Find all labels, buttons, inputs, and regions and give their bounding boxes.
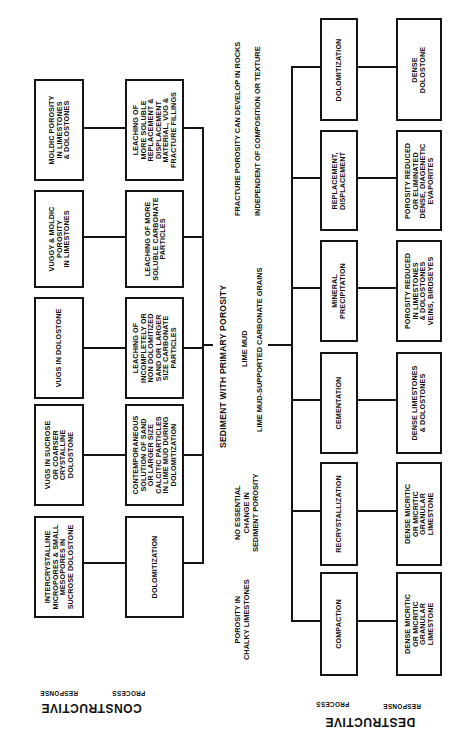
box-label: DENSE MICRITIC OR MICRITIC GRANULAR LIME… bbox=[404, 594, 434, 654]
constructive-response-intercrystalline-box: INTERCRYSTALLINE MICROPORES & SMALL MESO… bbox=[34, 516, 84, 618]
connector bbox=[357, 287, 396, 289]
destructive-stem bbox=[268, 344, 293, 346]
connector bbox=[292, 287, 320, 289]
destructive-response-micritic-2-box: DENSE MICRITIC OR MICRITIC GRANULAR LIME… bbox=[396, 572, 442, 676]
connector bbox=[357, 66, 396, 68]
box-label: MOLDIC POROSITY IN LIMESTONES & DOLOSTON… bbox=[48, 96, 71, 165]
constructive-process-contemporaneous-box: CONTEMPORANEOUS SOLUTION OF SAND OR LARG… bbox=[125, 404, 184, 506]
destructive-response-micritic-1-box: DENSE MICRITIC OR MICRITIC GRANULAR LIME… bbox=[396, 462, 442, 566]
box-label: LEACHING OF MORE SOLUBLE REPLACEMENT & D… bbox=[132, 92, 178, 168]
constructive-response-vugs-sucrose-box: VUGS IN SUCROSE OR COARSER CRYSTALLINE D… bbox=[34, 404, 84, 506]
connector bbox=[292, 620, 320, 622]
box-label: POROSITY REDUCED IN LIMESTONES & DOLOSTO… bbox=[404, 253, 434, 329]
connector bbox=[183, 562, 204, 564]
box-label: LEACHING OF MORE SOLUBLE CARBONATE PARTI… bbox=[143, 197, 166, 280]
box-label: REPLACEMENT, DISPLACEMENT bbox=[331, 152, 346, 210]
box-label: VUGS IN SUCROSE OR COARSER CRYSTALLINE D… bbox=[44, 421, 74, 490]
connector bbox=[292, 399, 320, 401]
destructive-response-veins-birdseyes-box: POROSITY REDUCED IN LIMESTONES & DOLOSTO… bbox=[396, 240, 442, 342]
constructive-response-vugs-dolostone-box: VUGS IN DOLOSTONE bbox=[34, 297, 84, 399]
constructive-process-header: PROCESS bbox=[112, 690, 145, 697]
box-label: DENSE LIMESTONES & DOLOSTONES bbox=[411, 366, 426, 441]
destructive-response-dense-dolostone-box: DENSE DOLOSTONE bbox=[396, 18, 442, 121]
connector bbox=[183, 454, 204, 456]
constructive-response-vuggy-box: VUGGY & MOLDIC POROSITY IN LIMESTONES bbox=[34, 190, 84, 288]
connector bbox=[183, 236, 204, 238]
box-label: DOLOMITIZATION bbox=[151, 536, 159, 599]
connector bbox=[83, 236, 125, 238]
connector bbox=[83, 562, 125, 564]
note-independent: INDEPENDENT OF COMPOSITION OR TEXTURE bbox=[253, 46, 262, 216]
connector bbox=[183, 347, 204, 349]
destructive-process-mineral-precipitation-box: MINERAL PRECIPITATION bbox=[320, 240, 358, 342]
constructive-stem bbox=[202, 344, 213, 346]
destructive-response-header: RESPONSE bbox=[383, 703, 421, 710]
box-label: DENSE MICRITIC OR MICRITIC GRANULAR LIME… bbox=[404, 484, 434, 544]
box-label: MINERAL PRECIPITATION bbox=[331, 263, 346, 319]
connector bbox=[292, 177, 320, 179]
connector bbox=[183, 127, 204, 129]
destructive-process-replacement-box: REPLACEMENT, DISPLACEMENT bbox=[320, 130, 358, 231]
note-fracture-porosity: FRACTURE POROSITY CAN DEVELOP IN ROCKS bbox=[233, 42, 242, 216]
destructive-title: DESTRUCTIVE bbox=[325, 715, 415, 729]
root-sublabel-lime-mud: LIME MUD bbox=[240, 330, 249, 367]
constructive-title: CONSTRUCTIVE bbox=[41, 701, 142, 715]
connector bbox=[83, 454, 125, 456]
destructive-response-dense-limestones-box: DENSE LIMESTONES & DOLOSTONES bbox=[396, 352, 442, 454]
box-label: INTERCRYSTALLINE MICROPORES & SMALL MESO… bbox=[44, 525, 74, 610]
constructive-process-leaching-soluble-box: LEACHING OF MORE SOLUBLE CARBONATE PARTI… bbox=[125, 190, 184, 288]
connector bbox=[357, 620, 396, 622]
box-label: RECRYSTALLIZATION bbox=[335, 475, 343, 552]
note-no-essential-change: NO ESSENTIAL CHANGE IN SEDIMENT POROSITY bbox=[233, 474, 260, 552]
note-chalky-limestones: POROSITY IN CHALKY LIMESTONES bbox=[233, 579, 251, 660]
constructive-response-header: RESPONSE bbox=[40, 690, 78, 697]
connector bbox=[292, 510, 320, 512]
connector bbox=[83, 347, 125, 349]
destructive-process-recrystallization-box: RECRYSTALLIZATION bbox=[320, 462, 358, 566]
destructive-process-compaction-box: COMPACTION bbox=[320, 572, 358, 676]
destructive-response-evaporites-box: POROSITY REDUCED OR ELIMINATED DENSE, DI… bbox=[396, 130, 442, 231]
constructive-process-dolomitization-box: DOLOMITIZATION bbox=[125, 516, 184, 618]
box-label: POROSITY REDUCED OR ELIMINATED DENSE, DI… bbox=[404, 142, 434, 218]
box-label: VUGGY & MOLDIC POROSITY IN LIMESTONES bbox=[48, 207, 71, 272]
destructive-process-header: PROCESS bbox=[316, 701, 349, 708]
connector bbox=[292, 66, 320, 68]
constructive-process-leaching-replacement-box: LEACHING OF MORE SOLUBLE REPLACEMENT & D… bbox=[125, 79, 184, 181]
connector bbox=[357, 399, 396, 401]
root-sublabel-grains: LIME MUD-SUPPORTED CARBONATE GRAINS bbox=[255, 267, 264, 432]
connector bbox=[357, 177, 396, 179]
destructive-bracket bbox=[291, 66, 293, 622]
box-label: VUGS IN DOLOSTONE bbox=[55, 309, 63, 388]
box-label: CEMENTATION bbox=[335, 377, 343, 430]
box-label: CONTEMPORANEOUS SOLUTION OF SAND OR LARG… bbox=[132, 416, 178, 495]
connector bbox=[357, 510, 396, 512]
constructive-response-moldic-box: MOLDIC POROSITY IN LIMESTONES & DOLOSTON… bbox=[34, 79, 84, 181]
root-label: SEDIMENT WITH PRIMARY POROSITY bbox=[218, 285, 228, 448]
box-label: DENSE DOLOSTONE bbox=[411, 46, 426, 92]
connector bbox=[83, 127, 125, 129]
box-label: COMPACTION bbox=[335, 599, 343, 649]
box-label: DOLOMITIZATION bbox=[335, 38, 343, 101]
box-label: LEACHING OF INCOMPLETELY OR NON DOLOMITI… bbox=[132, 313, 178, 383]
constructive-process-leaching-incomplete-box: LEACHING OF INCOMPLETELY OR NON DOLOMITI… bbox=[125, 297, 184, 399]
destructive-process-dolomitization-box: DOLOMITIZATION bbox=[320, 18, 358, 121]
destructive-process-cementation-box: CEMENTATION bbox=[320, 352, 358, 454]
